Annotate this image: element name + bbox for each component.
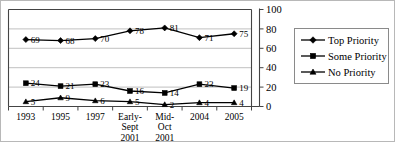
data-point-marker [128, 89, 133, 94]
data-point-marker [23, 37, 29, 43]
data-point-label: 70 [100, 34, 110, 44]
data-point-label: 4 [239, 98, 244, 108]
data-point-marker [162, 91, 167, 96]
y-tick-label: 80 [266, 24, 277, 35]
data-point-marker [162, 25, 168, 31]
x-tick-label: Early- Sept 2001 [113, 112, 148, 143]
y-tick-label: 100 [266, 4, 282, 15]
data-point-label: 81 [170, 23, 179, 33]
data-point-marker [231, 31, 237, 37]
legend-item[interactable]: No Priority [300, 64, 388, 80]
line-chart: 69687078817175242123161423195965244 0204… [0, 0, 395, 142]
data-point-marker [93, 82, 98, 87]
data-point-label: 68 [66, 36, 76, 46]
x-tick-label: 2005 [217, 112, 252, 123]
x-tick-label: Mid- Oct 2001 [147, 112, 182, 143]
data-point-marker [92, 36, 98, 42]
data-point-label: 23 [100, 79, 110, 89]
data-point-label: 16 [135, 86, 145, 96]
data-point-marker [58, 38, 64, 44]
y-tick-label: 0 [266, 101, 271, 112]
data-point-label: 78 [135, 26, 145, 36]
data-point-label: 24 [31, 78, 41, 88]
data-point-marker [23, 81, 28, 86]
x-tick-label: 1993 [9, 112, 44, 123]
data-point-marker [196, 35, 202, 41]
diamond-marker-icon [300, 33, 326, 47]
data-point-marker [58, 84, 63, 89]
data-point-label: 69 [31, 35, 41, 45]
data-point-label: 2 [170, 100, 175, 110]
data-point-label: 5 [31, 97, 36, 107]
x-tick-label: 2004 [182, 112, 217, 123]
chart-legend: Top PrioritySome PriorityNo Priority [294, 28, 389, 84]
square-marker-icon [300, 49, 326, 63]
y-tick-label: 40 [266, 62, 277, 73]
x-tick-label: 1997 [78, 112, 113, 123]
data-point-label: 75 [239, 29, 249, 39]
legend-label: Top Priority [326, 35, 379, 46]
legend-item[interactable]: Some Priority [300, 48, 388, 64]
x-axis [9, 107, 260, 111]
y-tick-label: 60 [266, 43, 277, 54]
data-point-label: 71 [204, 33, 213, 43]
y-tick-label: 20 [266, 82, 277, 93]
x-tick-label: 1995 [43, 112, 78, 123]
legend-label: Some Priority [326, 51, 387, 62]
data-point-marker [232, 86, 237, 91]
data-point-marker [197, 82, 202, 87]
data-point-label: 4 [204, 98, 209, 108]
y-tick-labels: 020406080100 [266, 4, 282, 112]
data-point-label: 9 [66, 93, 71, 103]
data-point-label: 21 [66, 81, 75, 91]
data-point-label: 5 [135, 97, 140, 107]
data-point-label: 23 [204, 79, 214, 89]
legend-label: No Priority [326, 67, 376, 78]
data-point-label: 6 [100, 96, 105, 106]
data-point-label: 19 [239, 83, 249, 93]
legend-item[interactable]: Top Priority [300, 32, 388, 48]
triangle-marker-icon [300, 65, 326, 79]
data-point-label: 14 [170, 88, 180, 98]
